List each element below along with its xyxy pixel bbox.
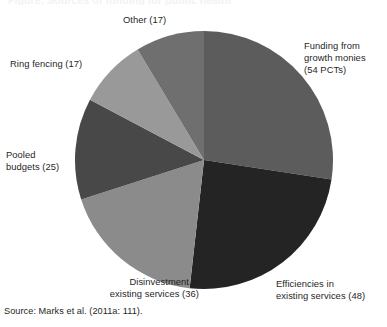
figure-container: Figure: Sources of funding for public he… (0, 0, 387, 327)
pie-label-disinvestment-existing-services: Disinvestment in existing services (36) (53, 276, 199, 300)
pie-label-funding-growth-monies: Funding from growth monies (54 PCTs) (304, 40, 387, 77)
pie-label-efficiencies-existing-services: Efficiencies in existing services (48) (276, 278, 387, 302)
source-note: Source: Marks et al. (2011a: 111). (4, 305, 143, 317)
pie-label-pooled-budgets: Pooled budgets (25) (6, 149, 82, 173)
cropped-caption-text: Figure: Sources of funding for public he… (8, 0, 338, 5)
pie-label-ring-fencing: Ring fencing (17) (10, 58, 114, 70)
pie-slice-efficiencies-existing-services (190, 160, 332, 289)
pie-label-other: Other (17) (123, 14, 209, 26)
